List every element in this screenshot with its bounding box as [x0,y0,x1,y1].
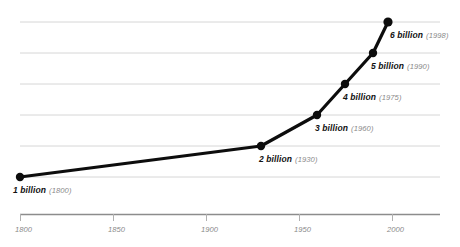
data-label-2-billion: 2 billion(1930) [259,155,318,164]
population-line-chart: 1 billion(1800) 2 billion(1930) 3 billio… [0,0,460,247]
x-tick-label-1800: 1800 [15,226,32,234]
x-tick-label-1850: 1850 [108,226,125,234]
data-label-year: (1930) [295,155,318,164]
data-label-year: (1975) [379,93,402,102]
data-label-year: (1998) [426,31,449,40]
x-tick-label-1950: 1950 [294,226,311,234]
x-tick-label-1900: 1900 [201,226,218,234]
data-point-3-billion [313,111,321,119]
data-label-year: (1960) [351,124,374,133]
x-axis [20,214,440,221]
data-point-6-billion [383,17,392,26]
data-label-year: (1800) [49,186,72,195]
data-label-4-billion: 4 billion(1975) [343,93,402,102]
data-point-1-billion [16,173,24,181]
data-label-value: 5 billion [371,61,404,71]
data-label-value: 4 billion [343,92,376,102]
data-label-value: 3 billion [315,123,348,133]
data-label-year: (1990) [407,62,430,71]
x-tick-label-2000: 2000 [387,226,404,234]
data-label-value: 1 billion [13,185,46,195]
data-series-world-population [16,17,393,181]
data-label-1-billion: 1 billion(1800) [13,186,72,195]
data-point-4-billion [341,80,349,88]
data-label-value: 2 billion [259,154,292,164]
data-point-5-billion [369,49,377,57]
data-line [20,22,388,177]
data-point-2-billion [257,142,265,150]
data-label-5-billion: 5 billion(1990) [371,62,430,71]
data-label-value: 6 billion [390,30,423,40]
data-label-3-billion: 3 billion(1960) [315,124,374,133]
data-label-6-billion: 6 billion(1998) [390,31,449,40]
